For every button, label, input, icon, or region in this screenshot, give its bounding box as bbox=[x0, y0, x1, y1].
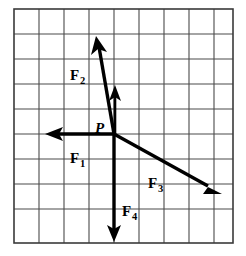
vector-f4-label-base: F bbox=[122, 203, 131, 219]
vector-diagram-figure: P F 1 F 2 F 3 F 4 bbox=[0, 0, 246, 256]
point-p-label: P bbox=[95, 120, 105, 136]
vector-diagram-canvas: P F 1 F 2 F 3 F 4 bbox=[0, 0, 246, 256]
vector-f1-label-subscript: 1 bbox=[80, 158, 85, 169]
vector-f4-label-subscript: 4 bbox=[132, 211, 138, 222]
vector-f2-label-base: F bbox=[70, 67, 79, 83]
vector-f2-label-subscript: 2 bbox=[80, 75, 85, 86]
vector-f3-label-subscript: 3 bbox=[158, 183, 163, 194]
vector-f1-label-base: F bbox=[70, 150, 79, 166]
vector-f3-label-base: F bbox=[148, 175, 157, 191]
